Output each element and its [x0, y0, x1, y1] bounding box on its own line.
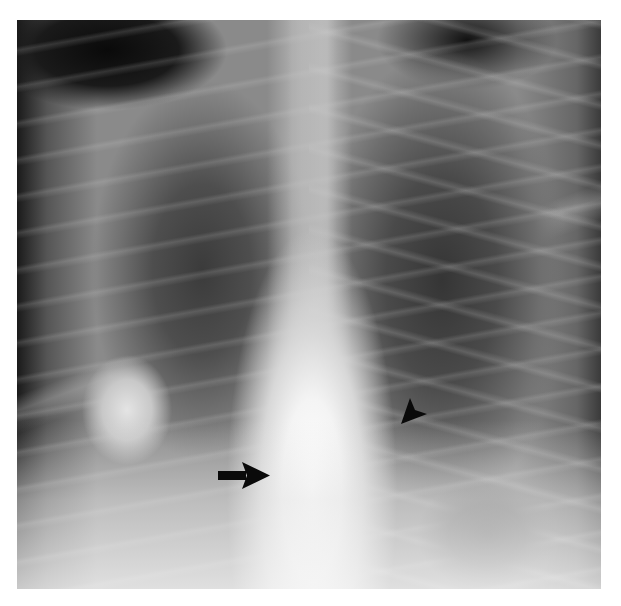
arrowhead-icon — [396, 394, 432, 430]
chest-xray-image — [17, 20, 601, 589]
arrow-icon — [214, 460, 274, 492]
abdomen-shadow — [17, 20, 601, 589]
